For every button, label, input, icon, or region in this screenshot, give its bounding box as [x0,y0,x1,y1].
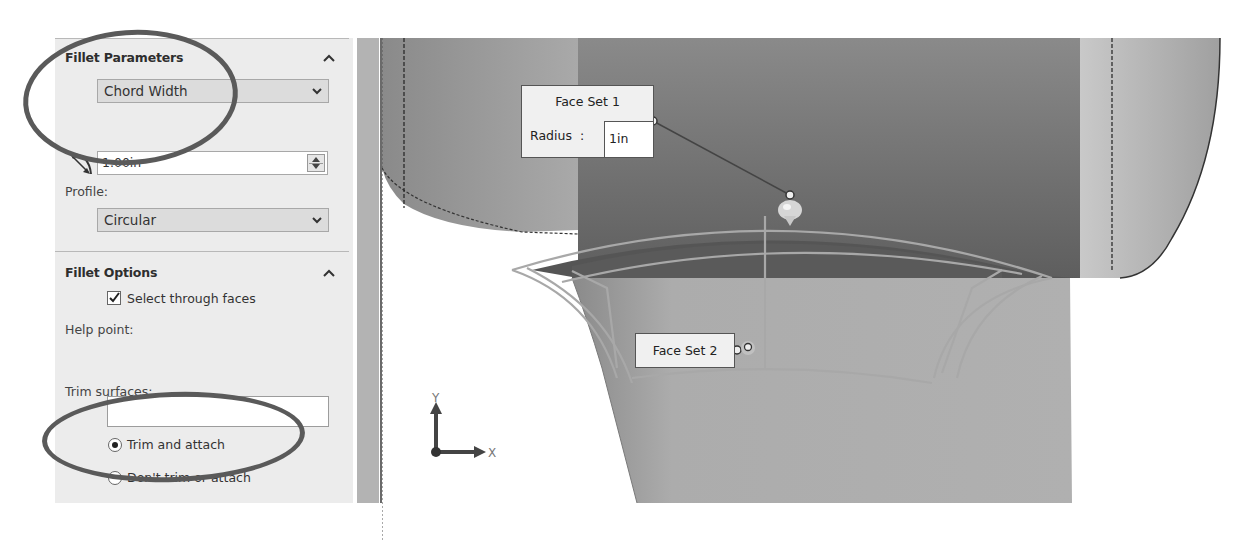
panel-scrollbar[interactable] [357,38,379,503]
chord-width-value: 1.00in [102,155,141,170]
svg-text:Y: Y [431,391,440,405]
trim-and-attach-radio[interactable] [108,438,122,452]
fillet-parameters-title: Fillet Parameters [65,50,183,65]
face-set-2-title: Face Set 2 [653,343,718,358]
face-set-1-callout[interactable]: Face Set 1 Radius : 1in [521,85,654,158]
chevron-down-icon [312,217,322,224]
dont-trim-or-attach-radio[interactable] [108,471,122,485]
chord-width-input[interactable]: 1.00in [97,151,328,175]
trim-surfaces-label: Trim surfaces: [65,384,152,399]
spin-down-icon[interactable] [312,164,320,169]
profile-selected: Circular [104,212,156,228]
chevron-up-icon[interactable] [321,264,337,280]
checkmark-icon [108,291,121,304]
face-set-2-callout[interactable]: Face Set 2 [635,333,735,368]
radius-label: Radius : [530,128,584,143]
profile-label: Profile: [65,184,108,199]
face-set-1-title: Face Set 1 [522,94,653,109]
radius-value-field[interactable]: 1in [604,121,654,158]
trim-and-attach-label: Trim and attach [127,437,225,452]
select-through-faces-checkbox[interactable] [107,291,121,305]
chevron-down-icon [312,88,322,95]
model-geometry [382,38,1243,541]
graphics-viewport[interactable]: Face Set 1 Radius : 1in Face Set 2 Y X [382,38,1243,541]
dont-trim-or-attach-label: Don't trim or attach [127,470,251,485]
fillet-method-dropdown[interactable]: Chord Width [97,79,329,103]
fillet-parameters-header[interactable]: Fillet Parameters [65,50,341,70]
help-point-label: Help point: [65,322,134,337]
chord-width-spinner[interactable] [307,154,325,172]
panel-top-divider [55,38,349,39]
fillet-method-selected: Chord Width [104,83,188,99]
fillet-options-title: Fillet Options [65,265,157,280]
profile-dropdown[interactable]: Circular [97,208,329,232]
help-point-field[interactable] [107,396,329,427]
svg-text:X: X [488,446,496,460]
fillet-options-header[interactable]: Fillet Options [65,265,341,285]
section-divider [55,251,349,252]
axis-triad-icon: Y X [424,388,504,468]
chevron-up-icon[interactable] [321,49,337,65]
chord-width-icon [67,148,95,178]
property-manager-panel: Fillet Parameters Chord Width 1.00in Pro… [55,38,353,503]
select-through-faces-label: Select through faces [127,291,256,306]
spin-up-icon[interactable] [312,157,320,162]
